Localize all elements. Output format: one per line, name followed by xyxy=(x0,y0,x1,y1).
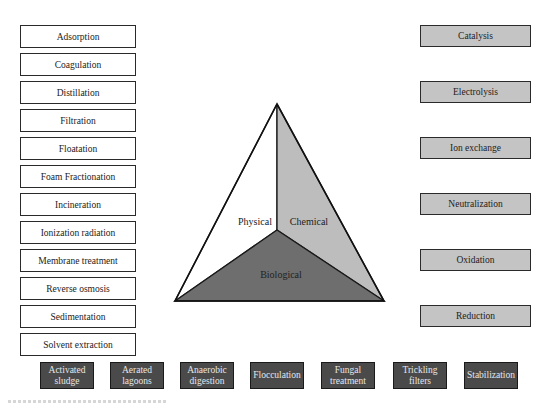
biological-label: Biological xyxy=(260,269,302,280)
cut-off-caption-fragment xyxy=(8,400,168,403)
physical-label: Physical xyxy=(238,216,272,227)
classification-triangle: Physical Chemical Biological xyxy=(0,0,554,406)
chemical-label: Chemical xyxy=(290,216,329,227)
